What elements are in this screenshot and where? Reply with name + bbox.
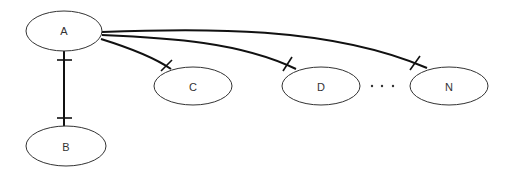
ellipsis-dot xyxy=(381,85,383,87)
bar-marker-n-end xyxy=(410,56,420,70)
node-c-label: C xyxy=(189,81,197,93)
ellipsis-dot xyxy=(392,85,394,87)
node-b[interactable]: B xyxy=(26,126,106,166)
edge-a-c xyxy=(101,39,172,71)
edge-a-n xyxy=(102,30,427,70)
node-c[interactable]: C xyxy=(154,67,232,105)
edge-a-b xyxy=(57,51,72,126)
node-d[interactable]: D xyxy=(282,67,360,105)
node-a[interactable]: A xyxy=(26,11,102,51)
edge-a-d xyxy=(102,35,296,71)
ellipsis-dot xyxy=(371,85,373,87)
ellipsis-indicator xyxy=(371,85,394,87)
node-b-label: B xyxy=(62,141,69,153)
node-n-label: N xyxy=(445,81,453,93)
node-d-label: D xyxy=(317,81,325,93)
node-n[interactable]: N xyxy=(410,67,488,105)
relationship-diagram: A B C D N xyxy=(0,0,510,178)
node-a-label: A xyxy=(60,25,68,37)
